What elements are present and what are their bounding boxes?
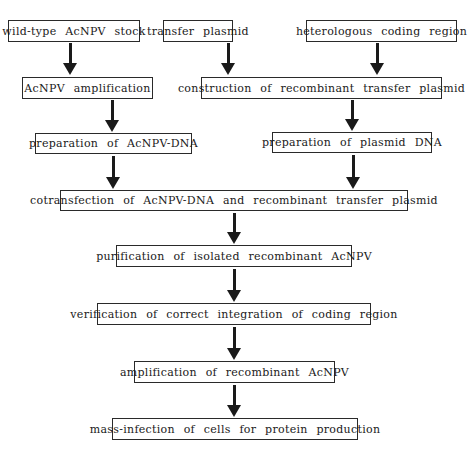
node-preparation-plasmid-dna: preparation of plasmid DNA xyxy=(272,132,432,153)
node-construction-recombinant-plasmid: construction of recombinant transfer pla… xyxy=(201,77,442,99)
node-transfer-plasmid: transfer plasmid xyxy=(163,20,233,42)
node-wild-type-acnpv-stock: wild-type AcNPV stock xyxy=(8,20,140,42)
arrow-down-icon xyxy=(106,156,120,189)
node-mass-infection: mass-infection of cells for protein prod… xyxy=(112,418,358,440)
arrow-down-icon xyxy=(221,43,235,75)
node-amplification-recombinant: amplification of recombinant AcNPV xyxy=(134,361,335,383)
node-acnpv-amplification: AcNPV amplification xyxy=(22,77,153,99)
node-verification: verification of correct integration of c… xyxy=(97,303,371,325)
arrow-down-icon xyxy=(227,213,241,244)
arrow-down-icon xyxy=(105,100,119,132)
node-heterologous-coding-region: heterologous coding region xyxy=(306,20,457,42)
node-cotransfection: cotransfection of AcNPV-DNA and recombin… xyxy=(60,190,408,211)
arrow-down-icon xyxy=(227,385,241,417)
arrow-down-icon xyxy=(345,100,359,131)
arrow-down-icon xyxy=(227,327,241,360)
arrow-down-icon xyxy=(370,43,384,75)
node-preparation-acnpv-dna: preparation of AcNPV-DNA xyxy=(35,133,192,154)
arrow-down-icon xyxy=(346,155,360,189)
arrow-down-icon xyxy=(63,43,77,75)
arrow-down-icon xyxy=(227,269,241,302)
node-purification: purification of isolated recombinant AcN… xyxy=(116,245,352,267)
